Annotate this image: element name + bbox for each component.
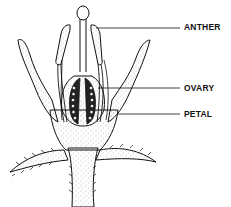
label-anther: ANTHER [184, 23, 221, 32]
label-petal: PETAL [184, 110, 212, 119]
label-ovary: OVARY [184, 84, 214, 93]
flower-diagram: ANTHER OVARY PETAL [0, 0, 231, 207]
stem [68, 148, 98, 207]
